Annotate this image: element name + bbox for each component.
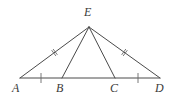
vertex-label-C: C [110,82,118,94]
vertex-label-E: E [84,6,91,18]
segment-ED [89,27,160,78]
segment-EC [89,27,115,78]
segment-EB [62,27,89,78]
vertex-label-D: D [155,82,164,94]
geometry-figure: A B C D E [0,0,180,105]
vertex-label-A: A [12,82,19,94]
vertex-label-B: B [56,82,63,94]
segment-AE [20,27,89,78]
